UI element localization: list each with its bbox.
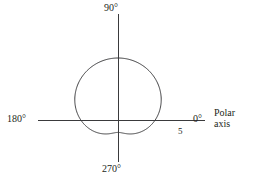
angle-label-180: 180° [7, 113, 26, 124]
polar-axis-caption-line2: axis [214, 118, 254, 129]
radial-tick-label-5: 5 [178, 126, 183, 137]
polar-plot-canvas [0, 0, 257, 180]
angle-label-270: 270° [102, 163, 121, 174]
polar-axis-caption: Polar axis [214, 107, 254, 129]
polar-plot-figure: 90° 180° 0° 270° 5 Polar axis [0, 0, 257, 180]
angle-label-0: 0° [193, 113, 202, 124]
polar-axis-caption-line1: Polar [214, 107, 254, 118]
angle-label-90: 90° [104, 2, 118, 13]
